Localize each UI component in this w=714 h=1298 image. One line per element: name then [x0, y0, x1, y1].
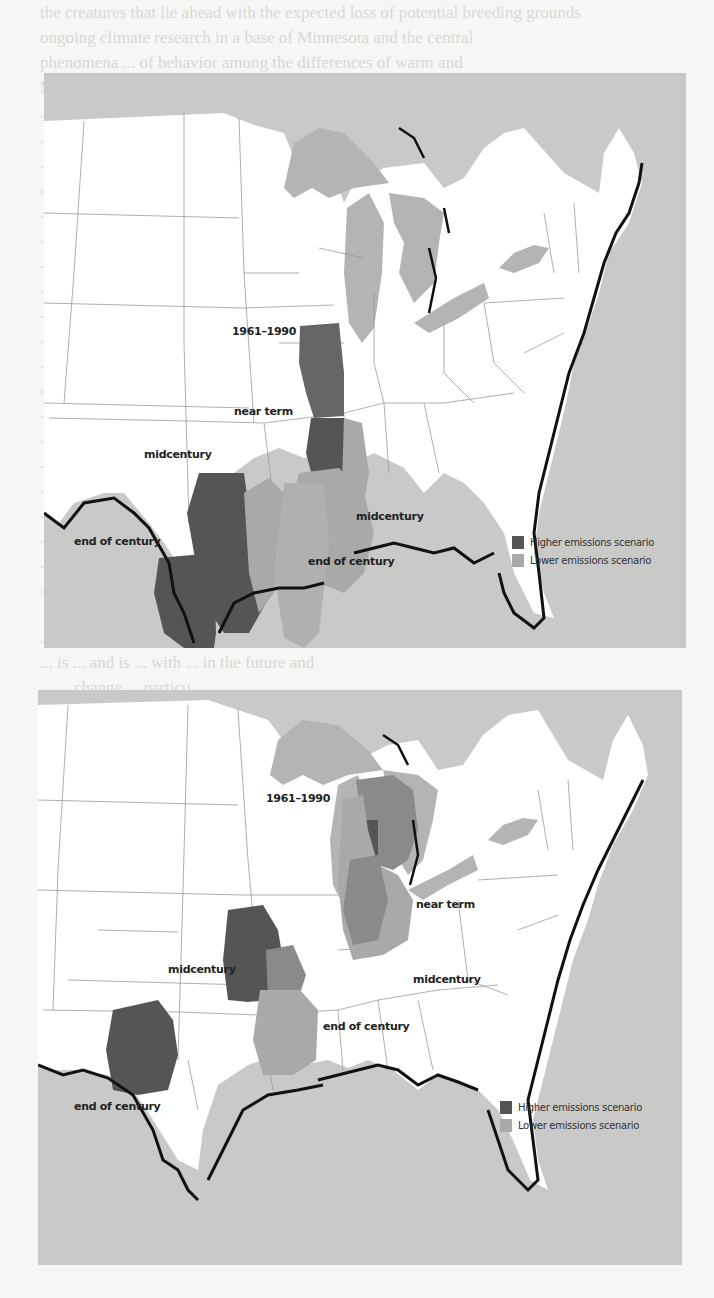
legend-michigan: Higher emissions scenario Lower emission…	[500, 1098, 642, 1134]
background-text-line: ongoing climate research in a base of Mi…	[0, 25, 714, 50]
region-end-century-high	[106, 1000, 178, 1095]
label-midcentury-low: midcentury	[356, 510, 424, 523]
legend-label-lower: Lower emissions scenario	[518, 1120, 639, 1131]
swatch-lower-emissions	[500, 1119, 512, 1132]
label-end-of-century-low: end of century	[323, 1020, 409, 1033]
legend-row-higher: Higher emissions scenario	[500, 1098, 642, 1116]
swatch-higher-emissions	[512, 536, 524, 549]
label-midcentury-high: midcentury	[144, 448, 212, 461]
label-near-term: near term	[416, 898, 475, 911]
region-end-century-high	[154, 553, 216, 648]
swatch-lower-emissions	[512, 554, 524, 567]
map-michigan-svg	[38, 690, 682, 1265]
label-1961-1990: 1961–1990	[266, 792, 330, 805]
label-near-term: near term	[234, 405, 293, 418]
label-end-of-century-low: end of century	[308, 555, 394, 568]
legend-row-lower: Lower emissions scenario	[512, 551, 654, 569]
map-michigan-climate: 1961–1990 near term midcentury midcentur…	[38, 690, 682, 1265]
label-end-of-century-high: end of century	[74, 1100, 160, 1113]
legend-row-higher: Higher emissions scenario	[512, 533, 654, 551]
legend-label-higher: Higher emissions scenario	[518, 1102, 642, 1113]
label-midcentury-low: midcentury	[413, 973, 481, 986]
swatch-higher-emissions	[500, 1101, 512, 1114]
region-end-century-low	[253, 990, 318, 1075]
legend-row-lower: Lower emissions scenario	[500, 1116, 642, 1134]
background-text-line: ... is ... and is ... with ... in the fu…	[0, 650, 714, 675]
background-text-line: the creatures that lie ahead with the ex…	[0, 0, 714, 25]
map-illinois-climate: 1961–1990 near term midcentury midcentur…	[44, 73, 686, 648]
legend-illinois: Higher emissions scenario Lower emission…	[512, 533, 654, 569]
legend-label-higher: Higher emissions scenario	[530, 537, 654, 548]
label-midcentury-high: midcentury	[168, 963, 236, 976]
label-1961-1990: 1961–1990	[232, 325, 296, 338]
legend-label-lower: Lower emissions scenario	[530, 555, 651, 566]
background-text-line: phenomena ... of behavior among the diff…	[0, 50, 714, 75]
label-end-of-century-high: end of century	[74, 535, 160, 548]
